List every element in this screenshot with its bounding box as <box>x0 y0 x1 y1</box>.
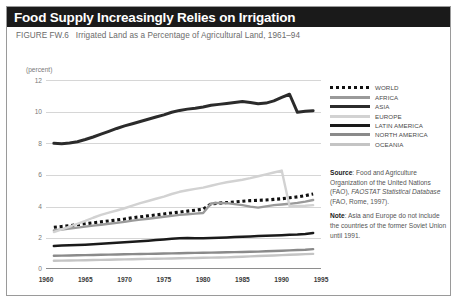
x-tick-1965: 1965 <box>70 276 100 283</box>
note-label: Note <box>330 212 345 219</box>
legend-swatch-oceania <box>330 143 370 146</box>
legend-item-asia: ASIA <box>330 103 428 111</box>
x-tick-1980: 1980 <box>188 276 218 283</box>
chart-legend: WORLD AFRICA ASIA EUROPE LATIN AMERICA N… <box>330 84 428 150</box>
legend-label-latin-america: LATIN AMERICA <box>375 122 423 129</box>
legend-divider <box>325 78 326 276</box>
data-lines <box>46 80 321 270</box>
legend-swatch-africa <box>330 96 370 99</box>
x-axis-line <box>46 268 321 269</box>
figure-subtitle: FIGURE FW.6 Irrigated Land as a Percenta… <box>16 31 300 40</box>
x-tick-1960: 1960 <box>31 276 61 283</box>
series-line-world <box>54 194 313 227</box>
y-tick-4: 4 <box>24 203 42 210</box>
legend-label-europe: EUROPE <box>375 113 402 120</box>
legend-item-north-america: NORTH AMERICA <box>330 131 428 139</box>
legend-swatch-asia <box>330 105 370 108</box>
legend-item-latin-america: LATIN AMERICA <box>330 122 428 130</box>
legend-swatch-europe <box>330 115 370 118</box>
y-tick-2: 2 <box>24 234 42 241</box>
legend-item-world: WORLD <box>330 84 428 92</box>
y-tick-12: 12 <box>24 77 42 84</box>
series-line-asia <box>54 94 313 143</box>
series-line-africa <box>54 200 313 230</box>
y-tick-10: 10 <box>24 108 42 115</box>
plot-area <box>46 80 321 270</box>
legend-swatch-world <box>330 86 370 89</box>
source-label: Source <box>330 169 352 176</box>
legend-label-asia: ASIA <box>375 103 390 110</box>
x-tick-1970: 1970 <box>110 276 140 283</box>
figure-number: FIGURE FW.6 <box>16 31 69 40</box>
legend-label-north-america: NORTH AMERICA <box>375 131 428 138</box>
x-tick-1990: 1990 <box>267 276 297 283</box>
x-tick-1985: 1985 <box>227 276 257 283</box>
source-tail: (FAO, Rome, 1997). <box>330 198 389 205</box>
y-tick-6: 6 <box>24 171 42 178</box>
y-tick-8: 8 <box>24 140 42 147</box>
legend-label-oceania: OCEANIA <box>375 141 404 148</box>
figure-page: Food Supply Increasingly Relies on Irrig… <box>0 0 459 306</box>
source-note: Source: Food and Agriculture Organizatio… <box>330 168 448 206</box>
legend-item-oceania: OCEANIA <box>330 140 428 148</box>
page-title: Food Supply Increasingly Relies on Irrig… <box>14 9 434 26</box>
figure-notes: Source: Food and Agriculture Organizatio… <box>330 168 448 245</box>
series-line-latin-america <box>54 233 313 246</box>
legend-item-europe: EUROPE <box>330 112 428 120</box>
series-line-europe <box>54 171 313 232</box>
legend-label-africa: AFRICA <box>375 94 398 101</box>
y-tick-0: 0 <box>24 265 42 272</box>
legend-label-world: WORLD <box>375 84 399 91</box>
general-note: Note: Asia and Europe do not include the… <box>330 211 448 240</box>
note-text: : Asia and Europe do not include the cou… <box>330 212 446 238</box>
legend-swatch-north-america <box>330 133 370 136</box>
y-axis-unit-label: (percent) <box>26 66 52 73</box>
x-tick-1995: 1995 <box>306 276 336 283</box>
legend-swatch-latin-america <box>330 124 370 127</box>
source-italic-title: FAOSTAT Statistical Database <box>351 188 440 195</box>
x-tick-1975: 1975 <box>149 276 179 283</box>
figure-caption: Irrigated Land as a Percentage of Agricu… <box>76 31 300 40</box>
legend-item-africa: AFRICA <box>330 93 428 101</box>
